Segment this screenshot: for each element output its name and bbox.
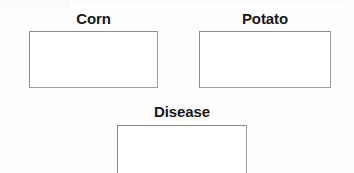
node-corn-box[interactable] <box>29 31 158 88</box>
node-potato-box[interactable] <box>199 31 331 88</box>
node-potato-label: Potato <box>199 10 331 27</box>
node-disease-box[interactable] <box>117 125 247 173</box>
node-disease-label: Disease <box>117 103 247 120</box>
diagram-canvas: Corn Potato Disease <box>0 0 354 173</box>
node-corn-label: Corn <box>29 10 158 27</box>
paper-tint-top <box>0 0 354 5</box>
paper-tint-right <box>344 0 354 173</box>
